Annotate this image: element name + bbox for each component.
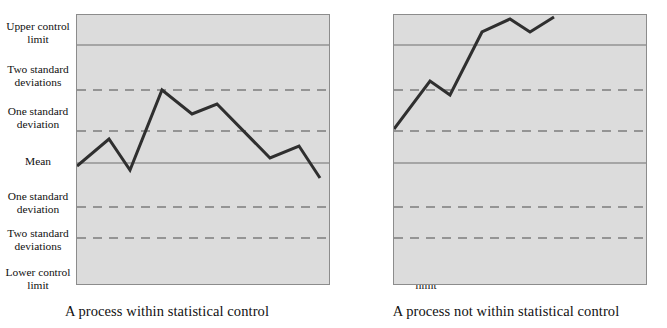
axis-label-upper-control-limit: Upper control limit bbox=[2, 20, 74, 45]
caption-right: A process not within statistical control bbox=[339, 303, 667, 320]
plot-svg-left bbox=[77, 15, 329, 284]
axis-label-two-standard-deviations-lower: Two standard deviations bbox=[2, 227, 74, 252]
plot-area-right bbox=[393, 14, 647, 285]
data-series-line-left bbox=[77, 90, 320, 178]
plot-svg-right bbox=[394, 15, 646, 284]
plot-area-left bbox=[76, 14, 330, 285]
axis-label-mean: Mean bbox=[2, 155, 74, 168]
data-series-line-right bbox=[394, 17, 554, 129]
reference-lines-right bbox=[394, 45, 646, 238]
control-chart-panel-right: Upper control limit Two standard deviati… bbox=[333, 0, 667, 328]
axis-label-two-standard-deviations-upper: Two standard deviations bbox=[2, 63, 74, 88]
reference-lines-left bbox=[77, 45, 329, 238]
control-chart-panel-left: Upper control limit Two standard deviati… bbox=[0, 0, 334, 328]
axis-label-one-standard-deviation-lower: One standard deviation bbox=[2, 190, 74, 215]
axis-label-column-left: Upper control limit Two standard deviati… bbox=[2, 0, 74, 300]
axis-label-lower-control-limit: Lower control limit bbox=[2, 266, 74, 291]
axis-label-one-standard-deviation-upper: One standard deviation bbox=[2, 105, 74, 130]
caption-left: A process within statistical control bbox=[0, 303, 334, 320]
